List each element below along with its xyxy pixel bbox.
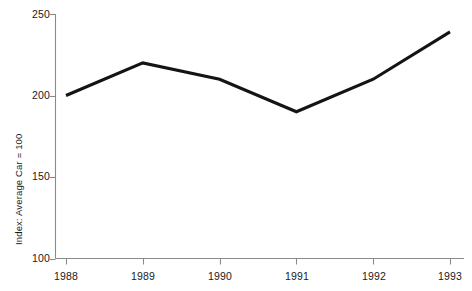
- y-tick-marks: [50, 15, 56, 260]
- data-series-line: [66, 32, 450, 112]
- line-chart: Index: Average Car = 100 250 200 150 100…: [0, 0, 472, 291]
- x-tick-marks: [67, 259, 451, 265]
- plot-area: [0, 0, 472, 291]
